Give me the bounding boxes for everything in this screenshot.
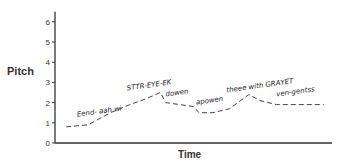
y-tick-label: 0 (46, 139, 51, 148)
annotation-text: ven-gentss (276, 85, 316, 98)
y-tick-label: 4 (46, 58, 51, 67)
pitch-chart: 0123456 Eend- aah wiSTTR-EYE-EKdowenapow… (0, 0, 345, 166)
annotations: Eend- aah wiSTTR-EYE-EKdowenapowentheee … (76, 77, 315, 119)
annotation-text: apowen (195, 95, 223, 107)
y-tick-label: 6 (46, 18, 51, 27)
y-axis-label: Pitch (7, 65, 34, 77)
annotation-text: Eend- aah wi (76, 104, 122, 118)
y-tick-label: 1 (46, 119, 51, 128)
y-tick-label: 5 (46, 38, 51, 47)
y-tick-label: 3 (46, 78, 51, 87)
x-axis-label: Time (178, 149, 201, 160)
y-tick-label: 2 (46, 99, 51, 108)
annotation-text: dowen (165, 87, 189, 98)
